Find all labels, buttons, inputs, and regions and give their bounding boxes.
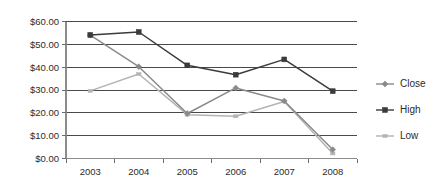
x-axis-tick-label: 2006 [225,166,246,177]
y-axis-tick-label: $40.00 [30,62,59,73]
data-point-low-2004 [137,73,141,76]
gridlines [66,22,357,159]
legend-marker-low [383,135,387,138]
legend-item-high[interactable]: High [376,104,421,115]
data-point-high-2005 [185,63,190,68]
x-axis-tick-label: 2008 [322,166,343,177]
data-point-high-2008 [330,89,335,94]
data-point-high-2004 [136,30,141,35]
data-series [87,30,335,155]
data-point-high-2006 [233,72,238,77]
legend-marker-high [383,108,388,113]
data-point-low-2003 [88,89,92,92]
chart-legend: CloseHighLow [376,78,426,141]
legend-item-close[interactable]: Close [376,78,426,89]
x-axis-tick-label: 2005 [177,166,198,177]
y-axis-tick-labels: $0.00$10.00$20.00$30.00$40.00$50.00$60.0… [30,16,59,164]
x-axis-tick-label: 2003 [80,166,101,177]
legend-label-high: High [400,104,421,115]
legend-label-close: Close [400,78,426,89]
y-axis-tick-label: $0.00 [35,153,59,164]
y-axis-tick-label: $60.00 [30,16,59,27]
x-axis-tick-label: 2007 [274,166,295,177]
y-axis-tick-label: $30.00 [30,84,59,95]
series-line-high [90,32,333,91]
y-axis-tick-label: $20.00 [30,107,59,118]
legend-item-low[interactable]: Low [376,130,419,141]
x-axis-tick-labels: 200320042005200620072008 [80,166,344,177]
series-line-close [90,35,333,149]
legend-label-low: Low [400,130,419,141]
legend-marker-close [382,81,388,87]
data-point-high-2003 [88,33,93,38]
series-high [88,30,335,94]
x-axis-tick-label: 2004 [128,166,149,177]
axes [62,22,357,163]
y-axis-tick-label: $50.00 [30,39,59,50]
line-chart: $0.00$10.00$20.00$30.00$40.00$50.00$60.0… [0,0,438,190]
data-point-low-2006 [234,115,238,118]
series-close [87,32,335,152]
chart-canvas: $0.00$10.00$20.00$30.00$40.00$50.00$60.0… [0,0,438,190]
y-axis-tick-label: $10.00 [30,130,59,141]
data-point-high-2007 [282,57,287,62]
